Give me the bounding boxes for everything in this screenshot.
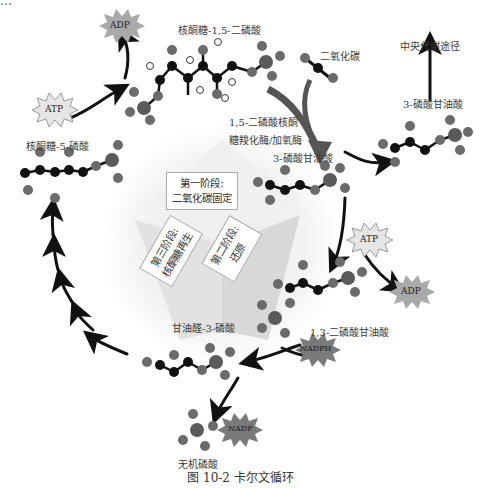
figure-caption: 图 10-2 卡尔文循环 bbox=[0, 468, 481, 485]
atp-left-label: ATP bbox=[45, 104, 63, 114]
nadph-label: NADPH bbox=[300, 344, 332, 353]
co2-label: 二氧化碳 bbox=[320, 48, 360, 63]
bpg-label: 1,3-二磷酸甘油酸 bbox=[310, 324, 389, 339]
pi-molecule bbox=[178, 409, 218, 451]
stage1-desc: 二氧化碳固定 bbox=[172, 191, 232, 206]
stage1-box: 第一阶段: 二氧化碳固定 bbox=[166, 172, 238, 210]
pga-center-label: 3-磷酸甘油酸 bbox=[273, 150, 333, 165]
atp-right-label: ATP bbox=[360, 234, 378, 244]
nadp-label: NADP bbox=[228, 424, 253, 433]
rubp-atoms bbox=[125, 39, 285, 126]
enzyme-label-line1: 1,5-二磷酸核酮 bbox=[229, 114, 298, 129]
adp-top-label: ADP bbox=[110, 20, 130, 30]
pga-right-label: 3-磷酸甘油酸 bbox=[403, 96, 463, 111]
adp-right-label: ADP bbox=[401, 286, 421, 296]
stage1-title: 第一阶段: bbox=[172, 176, 232, 191]
central-metabolism-label: 中央代谢途径 bbox=[400, 38, 460, 53]
rubp-label: 核酮糖-1,5-二磷酸 bbox=[178, 22, 261, 37]
pga-right-molecule bbox=[378, 115, 473, 167]
enzyme-label-line2: 糖羧化酶/加氧酶 bbox=[229, 132, 302, 147]
g3p-label: 甘油醛-3-磷酸 bbox=[172, 320, 235, 335]
ru5p-label: 核酮糖-5-磷酸 bbox=[26, 138, 89, 153]
